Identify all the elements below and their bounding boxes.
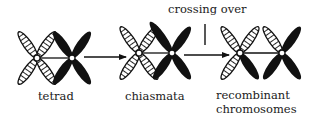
crossing-over-label: crossing over xyxy=(168,3,247,16)
recombinant-figure xyxy=(218,24,304,82)
tetrad-label: tetrad xyxy=(38,90,74,103)
centromere-icon xyxy=(279,50,285,56)
recombinant-label-line2: chromosomes xyxy=(216,103,297,116)
chiasmata-figure xyxy=(117,19,194,82)
centromere-icon xyxy=(136,50,142,56)
recombinant-label-line1: recombinant xyxy=(216,89,290,102)
chiasmata-label: chiasmata xyxy=(125,90,185,103)
centromere-icon xyxy=(69,55,75,61)
centromere-icon xyxy=(237,50,243,56)
tetrad-figure xyxy=(15,29,94,87)
centromere-icon xyxy=(34,55,40,61)
crossing-over-diagram: crossing over tetrad chiasmata recombina… xyxy=(0,0,316,121)
centromere-icon xyxy=(169,50,175,56)
